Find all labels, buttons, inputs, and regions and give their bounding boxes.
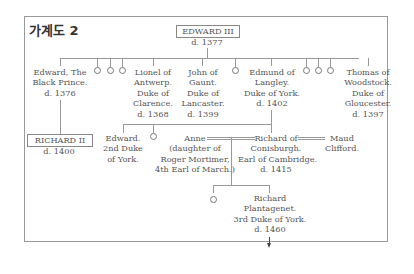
drop-lionel bbox=[153, 58, 154, 66]
drop-unnamed-5 bbox=[306, 58, 307, 67]
marriage-richard-maud bbox=[298, 137, 325, 140]
drop-unnamed-2 bbox=[110, 58, 111, 67]
root-connector bbox=[207, 48, 208, 58]
maud-clifford: Maud Clifford. bbox=[322, 133, 362, 154]
drop-unnamed-6 bbox=[318, 58, 319, 67]
unnamed-child-icon bbox=[315, 67, 322, 74]
unnamed-child-icon bbox=[232, 67, 239, 74]
children-line bbox=[60, 58, 359, 59]
drop-unnamed-1 bbox=[97, 58, 98, 67]
child-edward-2nd-duke: Edward. 2nd Duke of York. bbox=[100, 133, 146, 164]
richard-plantagenet: Richard Plantagenet. 3rd Duke of York. d… bbox=[232, 193, 308, 235]
drop-unnamed-9 bbox=[213, 185, 214, 193]
drop-thomas bbox=[368, 58, 369, 66]
drop-unnamed-8 bbox=[153, 124, 154, 133]
drop-black-prince bbox=[60, 58, 61, 66]
unnamed-child-icon bbox=[119, 67, 126, 74]
child-black-prince: Edward, The Black Prince. d. 1376 bbox=[30, 67, 90, 98]
diagram-title: 가계도 2 bbox=[29, 20, 79, 39]
root-death: d. 1377 bbox=[190, 37, 224, 47]
diagram-border bbox=[24, 16, 388, 242]
arrow-down-icon bbox=[267, 243, 271, 248]
child-john: John of Gaunt. Duke of Lancaster. d. 139… bbox=[178, 67, 228, 119]
child-thomas: Thomas of Woodstock. Duke of Gloucester.… bbox=[340, 67, 396, 119]
edmund-children-line bbox=[123, 124, 271, 125]
drop-richard-conisburgh bbox=[271, 124, 272, 133]
edmund-connector bbox=[271, 110, 272, 125]
grandchildren-line bbox=[213, 185, 269, 186]
connector-richard2 bbox=[60, 100, 61, 134]
unnamed-child-icon bbox=[327, 67, 334, 74]
drop-edward2nd bbox=[123, 124, 124, 133]
richard2-death: d. 1400 bbox=[40, 146, 78, 156]
unnamed-child-icon bbox=[107, 67, 114, 74]
drop-edmund bbox=[271, 58, 272, 66]
drop-richard-plantagenet bbox=[269, 185, 270, 193]
unnamed-child-icon bbox=[210, 196, 217, 203]
child-edmund: Edmund of Langley. Duke of York. d. 1402 bbox=[244, 67, 300, 109]
drop-unnamed-3 bbox=[122, 58, 123, 67]
drop-john bbox=[202, 58, 203, 66]
drop-unnamed-4 bbox=[235, 58, 236, 67]
couple-connector bbox=[231, 138, 232, 186]
unnamed-child-icon bbox=[94, 67, 101, 74]
child-lionel: Lionel of Antwerp. Duke of Clarence. d. … bbox=[128, 67, 178, 119]
unnamed-child-icon bbox=[303, 67, 310, 74]
drop-unnamed-7 bbox=[330, 58, 331, 67]
